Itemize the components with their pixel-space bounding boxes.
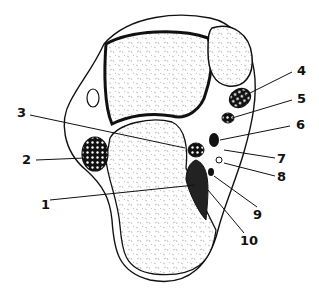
label-5: 5 bbox=[297, 92, 306, 105]
label-6: 6 bbox=[296, 118, 305, 131]
anatomy-figure bbox=[0, 0, 319, 303]
talus-bone bbox=[105, 32, 212, 124]
vessel-9 bbox=[208, 168, 214, 176]
label-3: 3 bbox=[17, 106, 26, 119]
label-10: 10 bbox=[240, 234, 258, 247]
label-4: 4 bbox=[297, 64, 306, 77]
nerve-8 bbox=[216, 157, 222, 163]
tendon-4 bbox=[226, 85, 254, 112]
tendon-2 bbox=[82, 137, 108, 171]
label-9: 9 bbox=[253, 208, 262, 221]
label-7: 7 bbox=[277, 152, 286, 165]
label-1: 1 bbox=[41, 198, 50, 211]
label-2: 2 bbox=[22, 153, 31, 166]
tendon-6 bbox=[188, 143, 204, 157]
malleolus-bone bbox=[208, 26, 252, 86]
label-8: 8 bbox=[277, 170, 286, 183]
vessel-7 bbox=[209, 133, 219, 147]
tendon-small-upper bbox=[87, 89, 99, 107]
